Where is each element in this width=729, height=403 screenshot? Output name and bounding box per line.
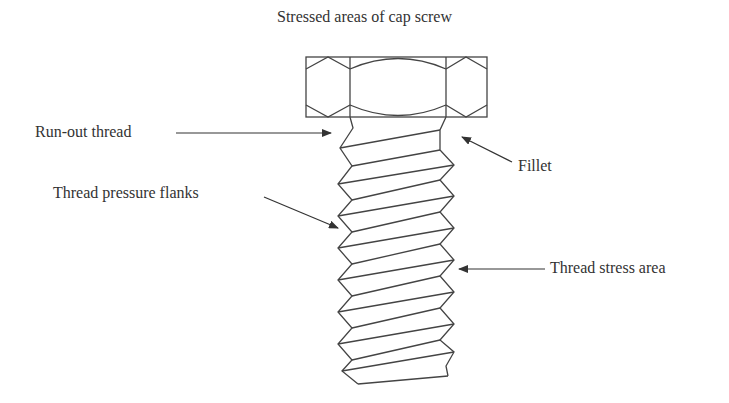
fillet-label: Fillet [518,157,552,175]
thread-pressure-flanks-arrow [264,197,338,228]
screw-head [306,57,487,117]
callout-arrows [176,133,545,269]
screw-threads [338,117,454,384]
thread-stress-area-label: Thread stress area [550,259,666,277]
fillet-arrow [462,137,512,162]
run-out-thread-label: Run-out thread [35,123,131,141]
thread-pressure-flanks-label: Thread pressure flanks [53,184,199,202]
